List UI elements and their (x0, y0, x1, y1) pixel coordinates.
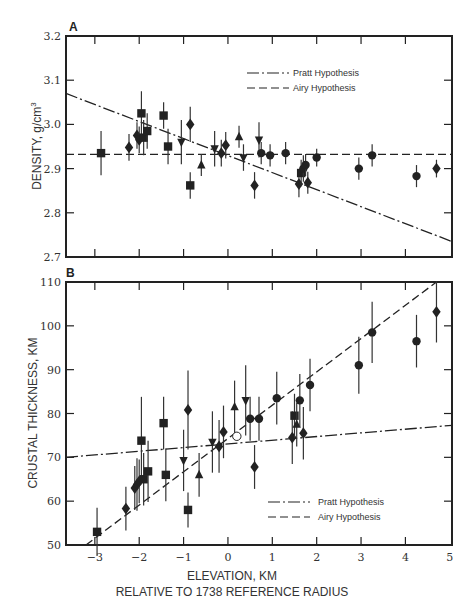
circle-marker (412, 337, 420, 345)
triangle-down-marker (255, 137, 263, 145)
diamond-marker (217, 147, 225, 159)
circle-marker (368, 328, 376, 336)
data-point (97, 131, 105, 175)
panel-a-y-ticks: 3.23.13.02.92.82.7 (44, 30, 453, 264)
svg-text:60: 60 (47, 495, 61, 508)
data-point (164, 129, 172, 164)
svg-text:100: 100 (40, 320, 61, 333)
circle-marker (306, 381, 314, 389)
data-point (125, 134, 133, 161)
svg-text:3.2: 3.2 (44, 30, 62, 43)
triangle-up-marker (195, 470, 203, 478)
diamond-marker (222, 139, 230, 151)
data-point (184, 371, 192, 450)
panel-a-legend: Pratt Hypothesis Airy Hypothesis (247, 68, 360, 93)
data-point (215, 420, 223, 473)
data-point (233, 432, 241, 440)
panel-a-y-axis-label: DENSITY, g/cm3 (29, 102, 44, 190)
svg-text:0: 0 (224, 551, 231, 564)
data-point (250, 172, 258, 199)
data-point (208, 411, 216, 472)
svg-text:3: 3 (358, 551, 365, 564)
diamond-marker (219, 426, 227, 438)
diamond-marker (184, 404, 192, 416)
circle-marker (255, 415, 263, 423)
circle-marker (355, 361, 363, 369)
svg-text:110: 110 (40, 276, 61, 289)
panel-b-y-axis-label: CRUSTAL THICKNESS, KM (26, 337, 40, 488)
svg-text:−3: −3 (87, 551, 103, 564)
square-marker (184, 506, 192, 514)
legend-airy-label: Airy Hypothesis (293, 83, 356, 93)
triangle-down-marker (239, 154, 247, 162)
triangle-up-marker (235, 132, 243, 140)
legend-pratt-label: Pratt Hypothesis (293, 68, 360, 78)
data-point (312, 149, 320, 167)
data-point (412, 315, 420, 368)
panel-a: A 3.23.13.02.92.82.7 DENSITY, g/cm3 Prat… (29, 20, 452, 264)
data-point (368, 302, 376, 363)
svg-text:−1: −1 (175, 551, 191, 564)
figure: A 3.23.13.02.92.82.7 DENSITY, g/cm3 Prat… (0, 0, 473, 615)
square-marker (139, 475, 147, 483)
square-marker (159, 111, 167, 119)
square-marker (93, 528, 101, 536)
data-point (122, 487, 130, 531)
data-point (266, 144, 274, 166)
data-point (246, 397, 254, 441)
circle-marker (273, 394, 281, 402)
square-marker (137, 436, 145, 444)
diamond-marker (186, 119, 194, 131)
svg-text:2.7: 2.7 (44, 251, 62, 264)
square-marker (162, 471, 170, 479)
data-point (306, 359, 314, 412)
pratt-hypothesis-line (66, 93, 452, 241)
legend-airy-label: Airy Hypothesis (318, 512, 381, 522)
data-point (186, 172, 194, 199)
diamond-marker (432, 306, 440, 318)
data-point (159, 397, 167, 450)
circle-marker (296, 396, 304, 404)
data-point (250, 445, 258, 489)
diamond-marker (295, 178, 303, 190)
svg-text:1: 1 (269, 551, 276, 564)
data-point (177, 120, 185, 164)
svg-text:3.0: 3.0 (44, 118, 62, 131)
diamond-marker (125, 142, 133, 154)
data-point (299, 407, 307, 460)
circle-marker (368, 151, 376, 159)
circle-marker (355, 164, 363, 172)
square-marker (144, 467, 152, 475)
panel-b: B 1101009080706050 CRUSTAL THICKNESS, KM… (26, 266, 452, 556)
panel-b-label: B (66, 266, 75, 280)
x-axis-label: ELEVATION, KM (187, 569, 277, 583)
open-circle-marker (233, 432, 241, 440)
data-point (281, 142, 289, 164)
data-point (186, 107, 194, 142)
data-point (195, 453, 203, 497)
triangle-up-marker (230, 402, 238, 410)
x-axis-tick-labels: −3−2−1012345 (87, 551, 454, 564)
square-marker (159, 419, 167, 427)
square-marker (186, 181, 194, 189)
data-point (355, 158, 363, 180)
triangle-up-marker (197, 160, 205, 168)
svg-text:5: 5 (446, 551, 453, 564)
square-marker (290, 411, 298, 419)
data-point (197, 154, 205, 176)
circle-marker (257, 149, 265, 157)
diamond-marker (288, 432, 296, 444)
data-point (184, 492, 192, 527)
svg-text:4: 4 (402, 551, 409, 564)
data-point (241, 365, 249, 435)
data-point (273, 372, 281, 425)
data-point (219, 406, 227, 459)
circle-marker (281, 149, 289, 157)
data-point (93, 508, 101, 556)
square-marker (97, 149, 105, 157)
triangle-down-marker (241, 397, 249, 405)
diamond-marker (250, 461, 258, 473)
diamond-marker (432, 163, 440, 175)
data-point (255, 397, 263, 441)
legend-pratt-label: Pratt Hypothesis (318, 497, 385, 507)
